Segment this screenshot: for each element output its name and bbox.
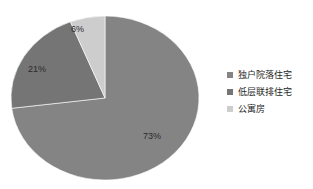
square-marker-icon [227, 72, 233, 78]
legend-item-label: 公寓房 [238, 104, 265, 114]
slice-data-label-townhouse: 21% [28, 64, 46, 74]
legend-item-single-family[interactable]: 独户院落住宅 [227, 66, 313, 83]
legend-item-label: 独户院落住宅 [238, 70, 292, 80]
pie-slices [11, 16, 199, 180]
slice-data-label-single-family: 73% [143, 131, 161, 141]
pie-chart-figure: 73% 21% 6% 独户院落住宅 低层联排住宅 公寓房 [0, 0, 313, 189]
legend-item-apartment[interactable]: 公寓房 [227, 100, 313, 117]
pie-svg [0, 0, 215, 189]
pie-plot-area: 73% 21% 6% [0, 0, 215, 189]
legend-item-label: 低层联排住宅 [238, 87, 292, 97]
square-marker-icon [227, 106, 233, 112]
square-marker-icon [227, 89, 233, 95]
legend-item-townhouse[interactable]: 低层联排住宅 [227, 83, 313, 100]
chart-legend: 独户院落住宅 低层联排住宅 公寓房 [227, 66, 313, 117]
slice-data-label-apartment: 6% [71, 24, 84, 34]
